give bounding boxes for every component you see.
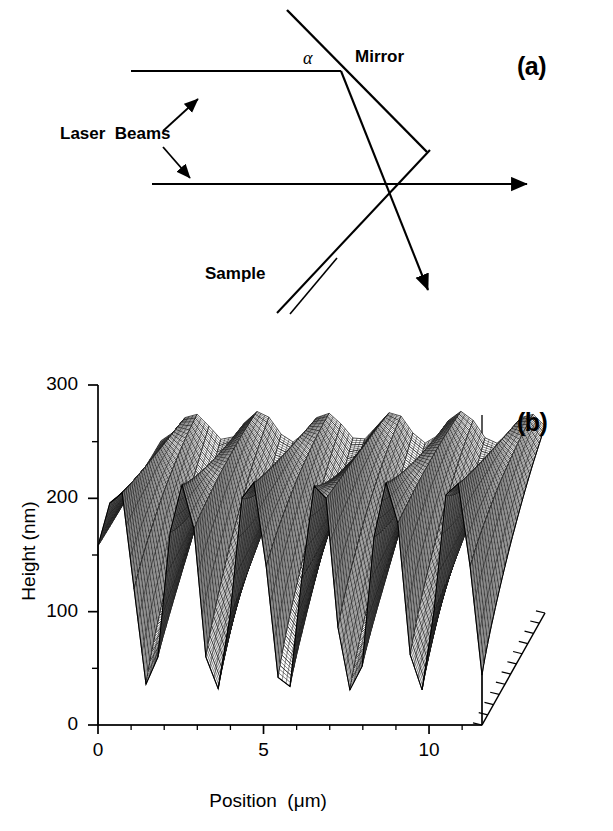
panel-a-letter: (a) <box>517 52 546 81</box>
x-tick-label: 10 <box>409 739 449 761</box>
x-axis-label: Position (μm) <box>148 790 388 812</box>
x-tick-label: 5 <box>244 739 284 761</box>
y-tick-label: 300 <box>26 373 78 395</box>
sample-line <box>277 150 430 313</box>
sample-label: Sample <box>205 264 265 284</box>
alpha-angle-label: α <box>303 48 312 69</box>
panel-b-letter: (b) <box>517 408 547 437</box>
surface-mesh <box>98 411 545 725</box>
laser-beams-lower-pointer-arrow <box>163 147 190 178</box>
y-axis-label: Height (nm) <box>18 491 40 611</box>
sample-leader-line <box>290 258 337 314</box>
x-tick-label: 0 <box>78 739 118 761</box>
mirror-line <box>287 10 427 152</box>
mirror-label: Mirror <box>355 47 404 67</box>
laser-beams-label: Laser Beams <box>60 124 171 144</box>
figure-container: Mirror Laser Beams Sample α (a) 01002003… <box>0 0 613 831</box>
y-tick-label: 0 <box>26 713 78 735</box>
reflected-beam-line <box>341 71 428 290</box>
depth-axis-line <box>482 613 545 725</box>
